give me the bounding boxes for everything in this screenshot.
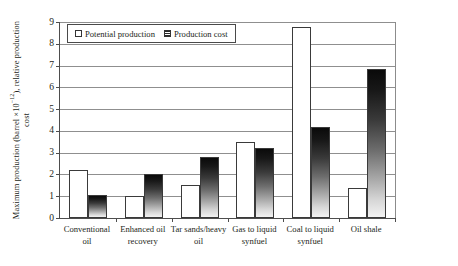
x-axis-category-label-line: synfuel [223,236,287,248]
x-axis-category-label: Tar sands/heavyoil [167,224,231,247]
legend-open-square-icon [75,30,82,37]
y-axis-tick-label: 2 [40,169,54,179]
y-axis-tick-label: 5 [40,104,54,114]
y-axis-tick [56,66,60,67]
bar [236,142,255,218]
x-axis-category-label-line: Gas to liquid [223,224,287,236]
y-axis-tick-labels: 0123456789 [38,22,54,218]
y-axis-tick [56,44,60,45]
x-axis-tick [116,218,117,222]
gridline [60,131,395,132]
bar [181,185,200,218]
gridline [60,44,395,45]
x-axis-category-label: Enhanced oilrecovery [111,224,175,247]
y-axis-tick-label: 1 [40,191,54,201]
x-axis-category-label-line: synfuel [278,236,342,248]
chart-legend: Potential productionProduction cost [67,24,236,43]
y-axis-title-text: Maximum production (barrel ×10−12), rela… [8,14,33,226]
y-axis-title: Maximum production (barrel ×10−12), rela… [0,0,40,232]
bar [311,127,330,218]
y-axis-tick [56,174,60,175]
y-axis-tick-label: 8 [40,38,54,48]
x-axis-category-label: Gas to liquidsynfuel [223,224,287,247]
y-axis-tick-label: 7 [40,60,54,70]
gridline [60,109,395,110]
y-axis-tick-label: 0 [40,213,54,223]
x-axis-tick [395,218,396,222]
x-axis-category-label-line: Tar sands/heavy [167,224,231,236]
legend-item: Production cost [164,29,228,39]
gridline [60,22,395,23]
x-axis-category-label-line: oil [55,236,119,248]
y-axis-tick-label: 9 [40,17,54,27]
legend-item-label: Production cost [174,29,228,39]
x-axis-category-label-line: Oil shale [334,224,398,236]
x-axis-category-label-line: oil [167,236,231,248]
plot-border-right [395,22,396,218]
x-axis-category-label: Conventionaloil [55,224,119,247]
bar [255,148,274,218]
gridline [60,196,395,197]
gridline [60,153,395,154]
y-axis-tick [56,131,60,132]
bar [125,196,144,218]
x-axis-category-label-line: Coal to liquid [278,224,342,236]
x-axis-tick [228,218,229,222]
x-axis-category-labels: ConventionaloilEnhanced oilrecoveryTar s… [59,224,394,264]
plot-area [59,22,395,219]
x-axis-category-label-line: Conventional [55,224,119,236]
y-axis-tick-label: 4 [40,125,54,135]
x-axis-category-label: Coal to liquidsynfuel [278,224,342,247]
y-axis-tick [56,218,60,219]
bar [367,69,386,218]
y-axis-tick-label: 3 [40,147,54,157]
gridline [60,87,395,88]
bar [69,170,88,218]
y-axis-tick-label: 6 [40,82,54,92]
bar [348,188,367,218]
bar [200,157,219,218]
x-axis-tick [283,218,284,222]
y-axis-tick [56,22,60,23]
x-axis-tick [172,218,173,222]
bar-chart: Maximum production (barrel ×10−12), rela… [0,0,458,266]
y-axis-title-before: Maximum production (barrel ×10 [11,103,20,219]
x-axis-category-label-line: Enhanced oil [111,224,175,236]
gridline [60,66,395,67]
y-axis-tick [56,153,60,154]
gridline [60,174,395,175]
x-axis-tick [339,218,340,222]
bar [144,174,163,218]
x-axis-category-label: Oil shale [334,224,398,236]
bar [88,195,107,218]
legend-hatched-square-icon [164,30,171,37]
y-axis-title-exponent: −12 [9,94,15,104]
legend-item-label: Potential production [85,29,155,39]
y-axis-tick [56,109,60,110]
y-axis-tick [56,87,60,88]
y-axis-tick [56,196,60,197]
bar [292,27,311,218]
x-axis-category-label-line: recovery [111,236,175,248]
legend-item: Potential production [75,29,155,39]
